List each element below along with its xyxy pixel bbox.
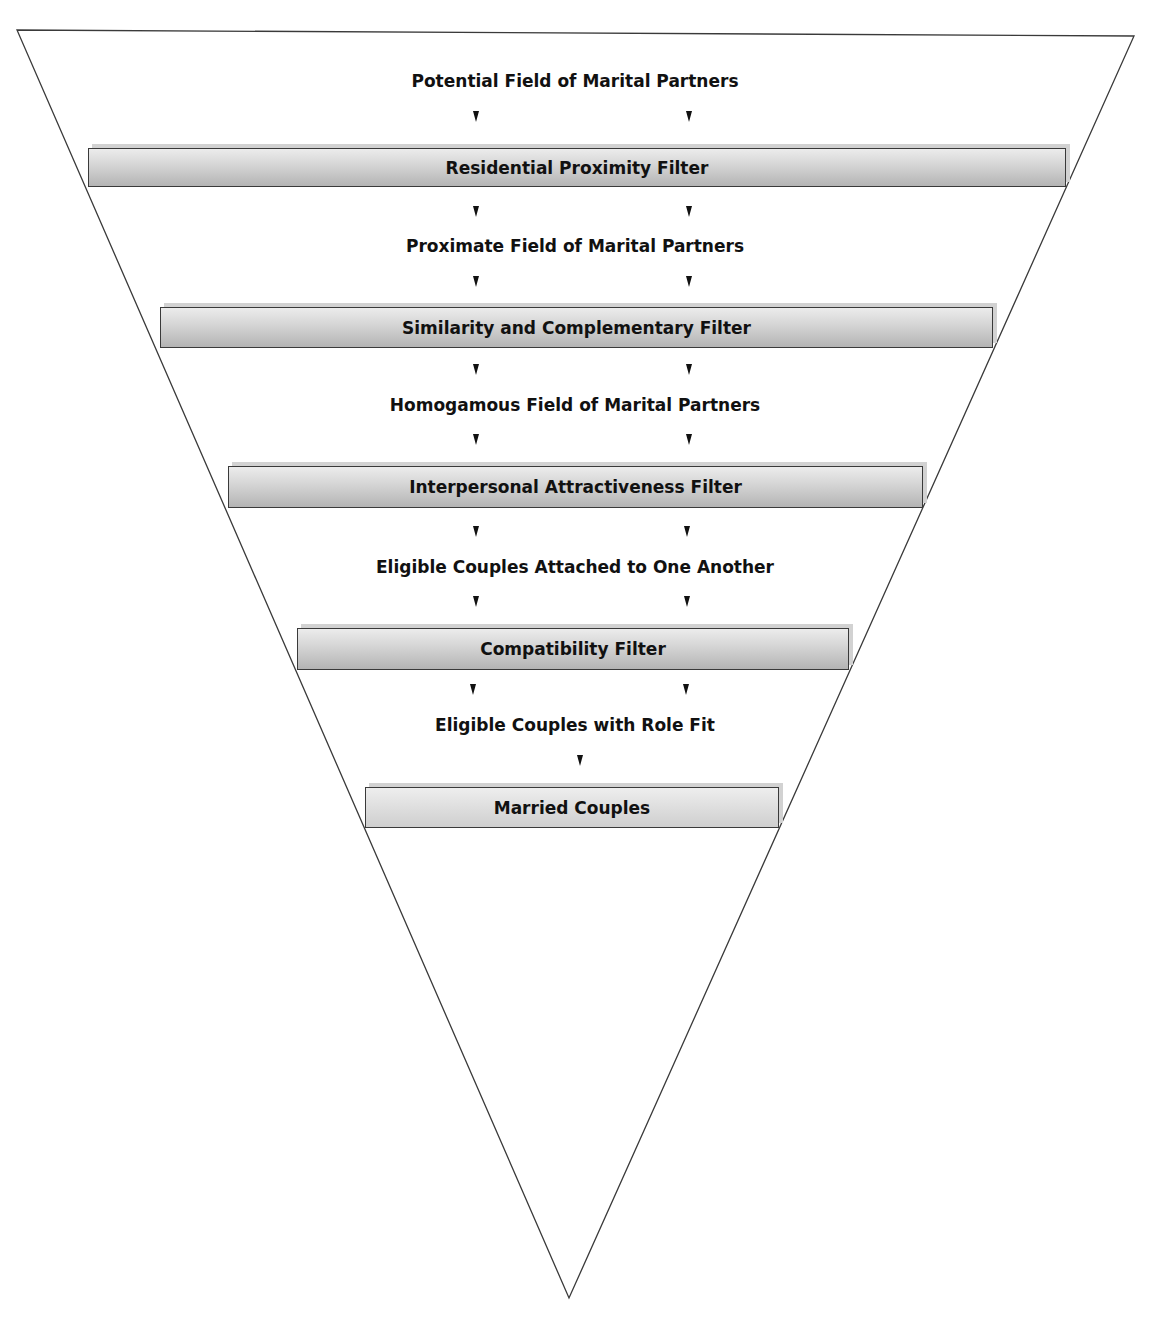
stage-label-role-fit: Eligible Couples with Role Fit	[0, 714, 1150, 736]
arrow-down-icon	[683, 684, 689, 695]
stage-label-homogamous-field: Homogamous Field of Marital Partners	[0, 394, 1150, 416]
stage-label-potential-field: Potential Field of Marital Partners	[0, 70, 1150, 92]
filter-bar-interpersonal-attractiveness: Interpersonal Attractiveness Filter	[228, 466, 923, 508]
arrow-down-icon	[684, 526, 690, 537]
filter-bar-compatibility: Compatibility Filter	[297, 628, 849, 670]
arrow-down-icon	[686, 364, 692, 375]
filter-label: Similarity and Complementary Filter	[402, 318, 751, 338]
arrow-down-icon	[684, 596, 690, 607]
arrow-down-icon	[473, 434, 479, 445]
filter-bar-residential-proximity: Residential Proximity Filter	[88, 148, 1066, 187]
arrow-down-icon	[473, 526, 479, 537]
filter-label: Interpersonal Attractiveness Filter	[409, 477, 742, 497]
stage-label-proximate-field: Proximate Field of Marital Partners	[0, 235, 1150, 257]
filter-bar-similarity-complementary: Similarity and Complementary Filter	[160, 307, 993, 348]
arrow-down-icon	[473, 206, 479, 217]
arrow-down-icon	[686, 111, 692, 122]
stage-label-eligible-attached: Eligible Couples Attached to One Another	[0, 556, 1150, 578]
filter-label: Compatibility Filter	[480, 639, 666, 659]
arrow-down-icon	[577, 755, 583, 766]
arrow-down-icon	[686, 206, 692, 217]
arrow-down-icon	[686, 434, 692, 445]
arrow-down-icon	[470, 684, 476, 695]
arrow-down-icon	[686, 276, 692, 287]
arrow-down-icon	[473, 111, 479, 122]
result-bar-married-couples: Married Couples	[365, 787, 779, 828]
filter-label: Residential Proximity Filter	[446, 158, 709, 178]
result-label: Married Couples	[494, 798, 651, 818]
arrow-down-icon	[473, 276, 479, 287]
arrow-down-icon	[473, 596, 479, 607]
arrow-down-icon	[473, 364, 479, 375]
